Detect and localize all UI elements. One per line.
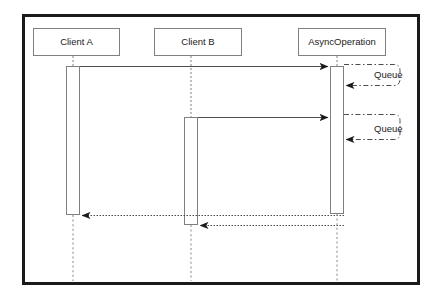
activation-bar-client-a	[67, 67, 80, 215]
self-message-label-queue-2: Queue	[374, 124, 403, 134]
sequence-diagram-canvas: Client A Client B AsyncOperation Queue Q…	[0, 0, 442, 297]
lifeline-label-client-b: Client B	[154, 37, 242, 47]
self-message-label-queue-1: Queue	[374, 70, 403, 80]
activation-bar-client-b	[185, 118, 198, 225]
lifeline-label-client-a: Client A	[33, 37, 120, 47]
activation-bar-async-operation	[331, 67, 344, 214]
lifeline-label-async-operation: AsyncOperation	[298, 37, 386, 47]
